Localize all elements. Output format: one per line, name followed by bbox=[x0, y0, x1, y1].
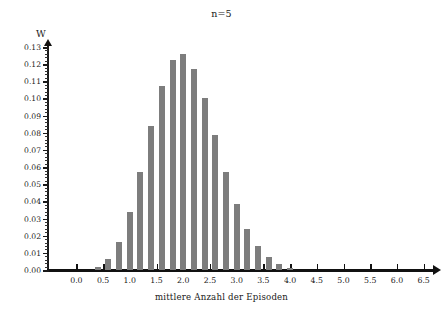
bar bbox=[116, 242, 122, 270]
chart-figure: n=5 W 0.000.010.020.030.040.050.060.070.… bbox=[0, 0, 443, 315]
y-axis-tick-label: 0.13 bbox=[3, 43, 41, 52]
y-axis-tick-label: 0.10 bbox=[3, 94, 41, 103]
bar bbox=[212, 135, 218, 270]
y-axis-tick-label-group: 0.000.010.020.030.040.050.060.070.080.09… bbox=[0, 0, 41, 315]
bar bbox=[276, 264, 282, 270]
bar bbox=[234, 204, 240, 270]
y-axis-tick-label: 0.06 bbox=[3, 163, 41, 172]
y-axis-tick-label: 0.00 bbox=[3, 266, 41, 275]
y-axis-tick-label: 0.04 bbox=[3, 197, 41, 206]
bar bbox=[105, 259, 111, 270]
bar bbox=[148, 126, 154, 270]
chart-title: n=5 bbox=[0, 8, 443, 19]
y-axis-tick-label: 0.08 bbox=[3, 128, 41, 137]
y-axis-tick-label: 0.07 bbox=[3, 145, 41, 154]
bar bbox=[266, 257, 272, 270]
bar bbox=[223, 172, 229, 270]
y-axis-tick-label: 0.09 bbox=[3, 111, 41, 120]
bar bbox=[202, 98, 208, 270]
y-axis-tick-label: 0.02 bbox=[3, 231, 41, 240]
y-axis-arrowhead bbox=[44, 39, 52, 46]
bar bbox=[137, 172, 143, 270]
y-axis-tick-label: 0.11 bbox=[3, 77, 41, 86]
y-axis-tick-label: 0.01 bbox=[3, 248, 41, 257]
bar bbox=[159, 86, 165, 270]
bar bbox=[170, 60, 176, 270]
bar bbox=[127, 212, 133, 270]
bar bbox=[191, 69, 197, 270]
y-axis-tick-label: 0.05 bbox=[3, 180, 41, 189]
y-axis-tick bbox=[43, 270, 49, 272]
x-axis-tick-label: 6.5 bbox=[407, 276, 441, 285]
bar bbox=[95, 267, 101, 270]
x-axis-title: mittlere Anzahl der Episoden bbox=[0, 292, 443, 302]
plot-area bbox=[47, 47, 437, 270]
bar bbox=[180, 54, 186, 270]
y-axis-tick-label: 0.12 bbox=[3, 60, 41, 69]
y-axis-tick-label: 0.03 bbox=[3, 214, 41, 223]
bar bbox=[255, 246, 261, 270]
bar bbox=[244, 229, 250, 270]
bar bbox=[287, 268, 293, 270]
